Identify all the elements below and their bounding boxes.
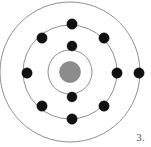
electron-shell2-5 <box>22 68 32 78</box>
electron-shell3-9 <box>37 101 47 111</box>
atom-canvas <box>0 0 151 147</box>
electron-layer <box>22 19 144 124</box>
bohr-atom-diagram: 3. <box>0 0 151 147</box>
electron-shell3-10 <box>99 101 109 111</box>
electron-shell2-6 <box>112 68 122 78</box>
electron-shell2-4 <box>67 114 77 124</box>
nucleus <box>60 62 81 83</box>
electron-shell3-8 <box>99 33 109 43</box>
electron-shell1-1 <box>67 41 77 51</box>
electron-shell1-2 <box>67 92 77 102</box>
electron-shell3-11 <box>134 68 144 78</box>
electron-shell3-7 <box>37 33 47 43</box>
figure-number-label: 3. <box>136 132 145 143</box>
electron-shell2-3 <box>67 19 77 29</box>
